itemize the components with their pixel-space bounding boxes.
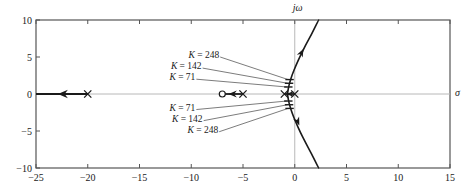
root-locus-plot [0, 0, 470, 190]
gain-label-K-248-lower: K = 248 [160, 125, 218, 135]
y-tick-label: −5 [2, 126, 32, 137]
gain-leader-line [220, 57, 288, 80]
x-tick-label: −15 [132, 172, 148, 183]
real-axis-label: σ [455, 87, 460, 98]
gain-leader-line [219, 108, 288, 131]
gain-leader-line [196, 101, 286, 110]
gain-label-K-248-upper: K = 248 [161, 50, 219, 60]
x-tick-label: −25 [28, 172, 44, 183]
x-tick-label: −20 [80, 172, 96, 183]
x-tick-label: 5 [344, 172, 349, 183]
imaginary-axis-label: jω [293, 2, 303, 13]
x-tick-label: −10 [183, 172, 199, 183]
y-tick-label: 5 [2, 52, 32, 63]
gain-label-K-142-lower: K = 142 [145, 114, 203, 124]
x-tick-label: 0 [292, 172, 297, 183]
zero-marker [219, 91, 225, 97]
root-figure: −25−20−15−10−5051015−10−50510jωσK = 248K… [0, 0, 470, 190]
gain-label-K-142-upper: K = 142 [144, 61, 202, 71]
y-tick-label: 0 [2, 89, 32, 100]
x-tick-label: 10 [393, 172, 403, 183]
y-tick-label: −10 [2, 163, 32, 174]
x-tick-label: −5 [238, 172, 249, 183]
y-tick-label: 10 [2, 15, 32, 26]
gain-label-K-71-lower: K = 71 [137, 103, 195, 113]
gain-label-K-71-upper: K = 71 [137, 72, 195, 82]
x-tick-label: 15 [445, 172, 455, 183]
